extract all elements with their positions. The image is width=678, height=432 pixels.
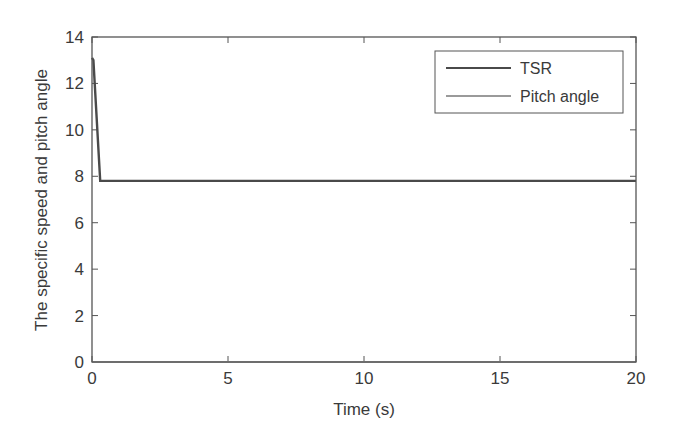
y-axis-title: The specific speed and pitch angle <box>32 69 51 331</box>
x-tick-label: 10 <box>355 369 374 388</box>
y-tick-label: 10 <box>65 121 84 140</box>
y-tick-label: 12 <box>65 74 84 93</box>
x-tick-label: 15 <box>491 369 510 388</box>
y-tick-label: 0 <box>75 353 84 372</box>
x-tick-label: 0 <box>87 369 96 388</box>
x-axis-title: Time (s) <box>333 400 395 419</box>
y-tick-label: 8 <box>75 167 84 186</box>
legend: TSR Pitch angle <box>435 51 623 113</box>
y-tick-label: 2 <box>75 307 84 326</box>
x-tick-label: 20 <box>627 369 646 388</box>
line-chart: 02468101214 05101520 Time (s) The specif… <box>0 0 678 432</box>
y-tick-label: 6 <box>75 214 84 233</box>
legend-label-pitch-angle: Pitch angle <box>520 88 599 105</box>
y-tick-label: 4 <box>75 260 84 279</box>
legend-label-tsr: TSR <box>520 60 552 77</box>
x-tick-label: 5 <box>223 369 232 388</box>
y-tick-label: 14 <box>65 28 84 47</box>
